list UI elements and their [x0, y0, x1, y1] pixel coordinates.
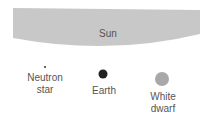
- sun-label: Sun: [93, 28, 123, 40]
- earth-circle: [99, 70, 108, 79]
- neutron-star-dot: [44, 66, 46, 68]
- white-dwarf-circle: [155, 72, 169, 86]
- white-dwarf-label: White dwarf: [145, 91, 181, 114]
- neutron-star-label: Neutron star: [22, 72, 68, 96]
- earth-label: Earth: [88, 85, 120, 97]
